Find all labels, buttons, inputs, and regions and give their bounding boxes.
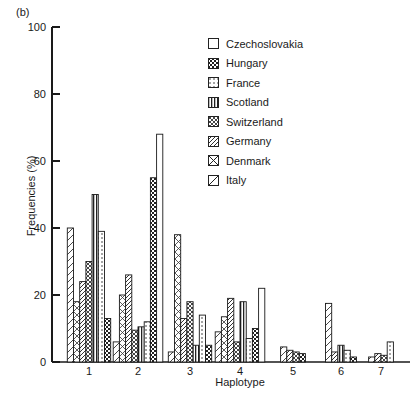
pattern-box-x-icon [208, 155, 219, 166]
bar-hungary-h6 [350, 357, 356, 362]
y-tick-label: 20 [34, 289, 46, 301]
legend: Czechoslovakia Hungary France Scotland S… [208, 34, 303, 190]
y-tick-label: 0 [40, 356, 46, 368]
y-tick-label: 100 [28, 21, 46, 33]
y-axis-label: Frequencies (%) [25, 151, 37, 241]
bar-france-h7 [387, 342, 393, 362]
pattern-dense-dots-icon [208, 58, 219, 69]
bar-switzerland-h1 [86, 262, 92, 363]
pattern-diagonal-hatch-icon [208, 136, 219, 147]
bar-germany-h4 [228, 298, 234, 362]
bar-denmark-h2 [119, 295, 125, 362]
bar-switzerland-h2 [132, 330, 138, 362]
bar-germany-h1 [80, 282, 86, 362]
bar-italy-h2 [113, 342, 119, 362]
bar-italy-h7 [369, 357, 375, 362]
bar-france-h6 [344, 350, 350, 362]
bar-switzerland-h5 [293, 352, 299, 362]
legend-item-germany: Germany [208, 132, 303, 152]
bar-italy-h3 [168, 352, 174, 362]
bar-italy-h6 [326, 303, 332, 362]
bar-germany-h6 [332, 352, 338, 362]
bar-scotland-h6 [338, 345, 344, 362]
bar-italy-h1 [67, 228, 73, 362]
bar-italy-h4 [215, 332, 221, 362]
x-tick-label: 5 [290, 365, 296, 377]
bar-germany-h3 [181, 318, 187, 362]
pattern-light-dots-icon [208, 77, 219, 88]
bar-italy-h5 [281, 347, 287, 362]
x-tick-label: 2 [135, 365, 141, 377]
bar-scotland-h4 [240, 302, 246, 362]
legend-item-denmark: Denmark [208, 151, 303, 171]
legend-item-italy: Italy [208, 171, 303, 191]
x-tick-label: 3 [187, 365, 193, 377]
legend-item-scotland: Scotland [208, 93, 303, 113]
bar-germany-h7 [375, 354, 381, 362]
bar-hungary-h5 [299, 354, 305, 362]
pattern-single-diagonal-icon [208, 175, 219, 186]
bar-scotland-h3 [193, 345, 199, 362]
bar-scotland-h2 [138, 327, 144, 362]
x-axis-label: Haplotype [200, 376, 280, 388]
bar-hungary-h1 [105, 318, 111, 362]
legend-item-czechoslovakia: Czechoslovakia [208, 34, 303, 54]
bar-france-h4 [246, 339, 252, 362]
legend-item-hungary: Hungary [208, 54, 303, 74]
pattern-crosshatch-icon [208, 116, 219, 127]
bar-france-h1 [98, 231, 104, 362]
y-tick-label: 80 [34, 88, 46, 100]
bar-switzerland-h7 [381, 355, 387, 362]
legend-item-switzerland: Switzerland [208, 112, 303, 132]
bar-switzerland-h3 [187, 302, 193, 362]
x-tick-label: 7 [378, 365, 384, 377]
bar-czechoslovakia-h4 [259, 288, 265, 362]
bar-germany-h2 [126, 275, 132, 362]
bar-switzerland-h4 [234, 342, 240, 362]
bar-hungary-h4 [252, 329, 258, 363]
bar-scotland-h1 [92, 195, 98, 363]
bar-denmark-h4 [221, 317, 227, 362]
bar-denmark-h3 [175, 235, 181, 362]
bar-france-h2 [144, 322, 150, 362]
legend-item-france: France [208, 73, 303, 93]
pattern-vertical-lines-icon [208, 97, 219, 108]
bar-denmark-h1 [74, 302, 80, 362]
bar-france-h3 [199, 315, 205, 362]
pattern-empty-icon [208, 38, 219, 49]
bar-hungary-h2 [150, 178, 156, 362]
bar-czechoslovakia-h2 [157, 134, 163, 362]
bar-germany-h5 [287, 350, 293, 362]
x-tick-label: 6 [338, 365, 344, 377]
x-tick-label: 1 [86, 365, 92, 377]
bar-hungary-h3 [206, 345, 212, 362]
